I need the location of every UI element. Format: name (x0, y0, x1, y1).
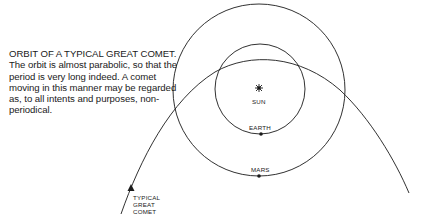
sun-star-icon (255, 84, 263, 92)
earth-label: EARTH (249, 124, 271, 131)
mars-dot (257, 174, 261, 178)
orbit-diagram: SUN EARTH MARS TYPICAL GREAT COMET (0, 0, 424, 222)
sun-label: SUN (252, 98, 266, 105)
comet-orbit (121, 60, 409, 214)
earth-dot (259, 132, 263, 136)
mars-label: MARS (251, 166, 270, 173)
comet-label-line3: COMET (133, 208, 156, 215)
comet-label-line1: TYPICAL (133, 194, 161, 201)
comet-label-line2: GREAT (133, 201, 155, 208)
arrow-icon (128, 184, 135, 191)
